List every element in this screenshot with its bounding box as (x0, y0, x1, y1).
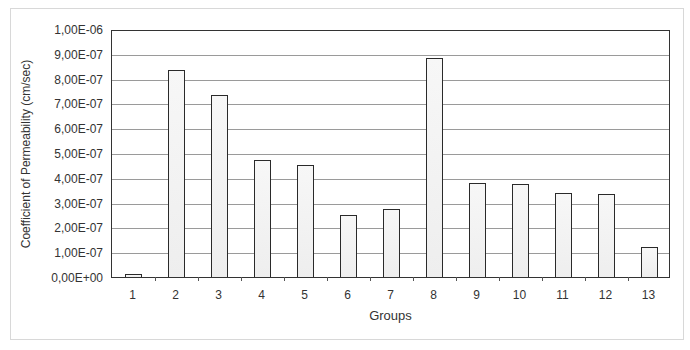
x-tick-label: 1 (118, 288, 148, 302)
x-tick-label: 12 (591, 288, 621, 302)
bar-group-9 (469, 183, 486, 277)
bar-group-10 (512, 184, 529, 277)
gridline (112, 154, 669, 155)
bar-group-5 (297, 165, 314, 277)
gridline (112, 129, 669, 130)
bar-group-2 (168, 70, 185, 277)
x-tick-label: 2 (161, 288, 191, 302)
x-tick-label: 6 (333, 288, 363, 302)
gridline (112, 104, 669, 105)
y-tick-label: 8,00E-07 (3, 73, 103, 87)
x-tick-label: 9 (462, 288, 492, 302)
x-tick-mark (413, 277, 414, 281)
bar-group-4 (254, 160, 271, 277)
x-tick-mark (198, 277, 199, 281)
x-tick-label: 11 (548, 288, 578, 302)
x-tick-label: 7 (376, 288, 406, 302)
x-tick-label: 8 (419, 288, 449, 302)
y-tick-label: 1,00E-06 (3, 23, 103, 37)
gridline (112, 204, 669, 205)
bar-group-7 (383, 209, 400, 277)
bar-group-1 (125, 274, 142, 277)
y-tick-label: 2,00E-07 (3, 221, 103, 235)
x-tick-label: 13 (634, 288, 664, 302)
x-tick-mark (370, 277, 371, 281)
x-axis-label: Groups (111, 308, 670, 323)
x-tick-label: 10 (505, 288, 535, 302)
y-tick-label: 0,00E+00 (3, 271, 103, 285)
y-tick-label: 9,00E-07 (3, 48, 103, 62)
gridline (112, 55, 669, 56)
x-tick-label: 5 (290, 288, 320, 302)
gridline (112, 80, 669, 81)
x-tick-mark (456, 277, 457, 281)
bar-group-8 (426, 58, 443, 277)
x-tick-mark (284, 277, 285, 281)
x-tick-label: 3 (204, 288, 234, 302)
bar-group-11 (555, 193, 572, 277)
x-tick-mark (155, 277, 156, 281)
y-tick-label: 1,00E-07 (3, 246, 103, 260)
y-tick-label: 6,00E-07 (3, 122, 103, 136)
x-tick-mark (628, 277, 629, 281)
bar-group-3 (211, 95, 228, 277)
y-tick-label: 4,00E-07 (3, 172, 103, 186)
x-tick-mark (585, 277, 586, 281)
gridline (112, 179, 669, 180)
x-tick-mark (499, 277, 500, 281)
x-tick-label: 4 (247, 288, 277, 302)
x-tick-mark (542, 277, 543, 281)
bar-group-6 (340, 215, 357, 277)
x-tick-mark (241, 277, 242, 281)
x-tick-mark (327, 277, 328, 281)
y-tick-label: 3,00E-07 (3, 197, 103, 211)
y-tick-label: 5,00E-07 (3, 147, 103, 161)
bar-group-13 (641, 247, 658, 277)
plot-area (111, 30, 670, 278)
y-tick-label: 7,00E-07 (3, 97, 103, 111)
bar-group-12 (598, 194, 615, 277)
